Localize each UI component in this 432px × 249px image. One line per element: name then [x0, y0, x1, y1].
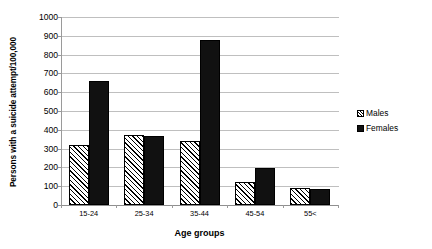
- y-tick-label: 500: [24, 107, 58, 116]
- y-tick-mark: [58, 149, 61, 150]
- y-tick-mark: [58, 130, 61, 131]
- y-axis-title: Persons with a suicide attempt/100,000: [8, 17, 18, 207]
- x-tick-label: 25-34: [116, 209, 171, 218]
- x-axis-line: [61, 205, 339, 206]
- x-tick-mark: [338, 205, 339, 208]
- hatched-swatch-icon: [357, 110, 364, 117]
- x-axis-title: Age groups: [61, 228, 338, 238]
- legend-label: Females: [366, 122, 398, 134]
- y-tick-label: 1000: [24, 13, 58, 22]
- x-tick-label: 35-44: [172, 209, 227, 218]
- x-tick-label: 55<: [283, 209, 338, 218]
- bar-chart: Persons with a suicide attempt/100,000 1…: [0, 0, 432, 249]
- y-axis-ticks: 10009008007006005004003002001000: [24, 0, 58, 249]
- y-tick-label: 600: [24, 88, 58, 97]
- y-tick-mark: [58, 17, 61, 18]
- x-tick-label: 45-54: [227, 209, 282, 218]
- y-tick-label: 900: [24, 32, 58, 41]
- y-tick-mark: [58, 186, 61, 187]
- bar-females-15-24: [89, 81, 109, 205]
- y-tick-label: 200: [24, 163, 58, 172]
- x-tick-mark: [172, 205, 173, 208]
- bar-males-55<: [290, 188, 310, 205]
- y-tick-mark: [58, 73, 61, 74]
- bar-females-35-44: [200, 40, 220, 205]
- bar-males-25-34: [124, 135, 144, 205]
- bar-males-35-44: [180, 141, 200, 205]
- bars-container: [61, 17, 338, 205]
- y-tick-mark: [58, 92, 61, 93]
- bar-females-45-54: [255, 168, 275, 205]
- x-tick-mark: [61, 205, 62, 208]
- legend-item-females: Females: [357, 122, 398, 134]
- solid-black-swatch-icon: [357, 125, 364, 132]
- bar-females-25-34: [144, 136, 164, 205]
- y-tick-label: 700: [24, 69, 58, 78]
- y-tick-mark: [58, 36, 61, 37]
- x-tick-mark: [283, 205, 284, 208]
- y-tick-label: 0: [24, 201, 58, 210]
- y-tick-label: 800: [24, 50, 58, 59]
- y-tick-label: 400: [24, 126, 58, 135]
- bar-males-15-24: [69, 145, 89, 205]
- y-tick-label: 100: [24, 182, 58, 191]
- bar-females-55<: [310, 189, 330, 205]
- x-tick-mark: [227, 205, 228, 208]
- bar-males-45-54: [235, 182, 255, 206]
- legend-item-males: Males: [357, 107, 398, 119]
- y-tick-mark: [58, 111, 61, 112]
- x-tick-label: 15-24: [61, 209, 116, 218]
- y-tick-mark: [58, 167, 61, 168]
- y-tick-label: 300: [24, 144, 58, 153]
- x-tick-mark: [116, 205, 117, 208]
- y-tick-mark: [58, 55, 61, 56]
- chart-legend: MalesFemales: [357, 107, 398, 137]
- legend-label: Males: [366, 107, 388, 119]
